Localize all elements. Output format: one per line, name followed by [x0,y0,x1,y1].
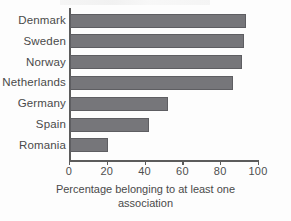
category-label-sweden: Sweden [24,35,66,47]
category-label-romania: Romania [19,139,66,151]
bar-row: Spain [0,117,291,138]
x-tick-label: 0 [66,165,72,177]
bar-row: Sweden [0,34,291,55]
bar-germany [70,97,168,111]
x-tick-label: 40 [138,165,151,177]
bar-row: Germany [0,96,291,117]
category-label-spain: Spain [36,118,66,130]
bar-romania [70,138,108,152]
x-tick-label: 20 [100,165,113,177]
x-tick-label: 100 [249,165,268,177]
bar-row: Netherlands [0,75,291,96]
category-label-germany: Germany [18,97,66,109]
category-label-norway: Norway [26,56,66,68]
bar-denmark [70,14,246,28]
bar-netherlands [70,76,233,90]
bar-chart-figure: DenmarkSwedenNorwayNetherlandsGermanySpa… [0,0,291,221]
bar-sweden [70,34,244,48]
bar-row: Denmark [0,13,291,34]
x-tick-label: 60 [176,165,189,177]
bar-row: Romania [0,138,291,159]
x-axis-label-line-2: association [0,196,291,210]
category-label-netherlands: Netherlands [2,76,66,88]
plot-area: DenmarkSwedenNorwayNetherlandsGermanySpa… [0,0,291,166]
x-tick-label: 80 [214,165,227,177]
bar-spain [70,118,149,132]
category-label-denmark: Denmark [18,14,66,26]
x-axis-label-line-1: Percentage belonging to at least one [0,182,291,196]
bar-row: Norway [0,55,291,76]
bar-norway [70,55,242,69]
x-axis-line [69,160,259,162]
x-axis-label: Percentage belonging to at least one ass… [0,182,291,210]
